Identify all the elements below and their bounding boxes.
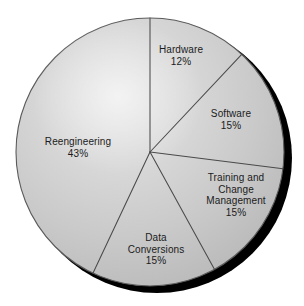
- slice-label-training-line2: Change: [190, 184, 282, 196]
- slice-label-data-conversions: Data Conversions 15%: [114, 232, 198, 267]
- slice-label-training-and-change-management: Training and Change Management 15%: [190, 172, 282, 218]
- slice-label-reengineering: Reengineering 43%: [26, 136, 130, 159]
- slice-label-training-value: 15%: [190, 207, 282, 219]
- slice-label-reengineering-value: 43%: [26, 148, 130, 160]
- slice-label-training-line3: Management: [190, 195, 282, 207]
- slice-label-software-name: Software: [197, 108, 265, 120]
- slice-label-hardware-value: 12%: [147, 56, 215, 68]
- slice-label-reengineering-name: Reengineering: [26, 136, 130, 148]
- pie-chart: Hardware 12% Software 15% Training and C…: [0, 0, 304, 306]
- slice-label-software: Software 15%: [197, 108, 265, 131]
- slice-label-software-value: 15%: [197, 120, 265, 132]
- slice-label-data-line2: Conversions: [114, 244, 198, 256]
- slice-label-hardware: Hardware 12%: [147, 44, 215, 67]
- slice-label-data-value: 15%: [114, 255, 198, 267]
- slice-label-training-line1: Training and: [190, 172, 282, 184]
- slice-label-hardware-name: Hardware: [147, 44, 215, 56]
- slice-label-data-line1: Data: [114, 232, 198, 244]
